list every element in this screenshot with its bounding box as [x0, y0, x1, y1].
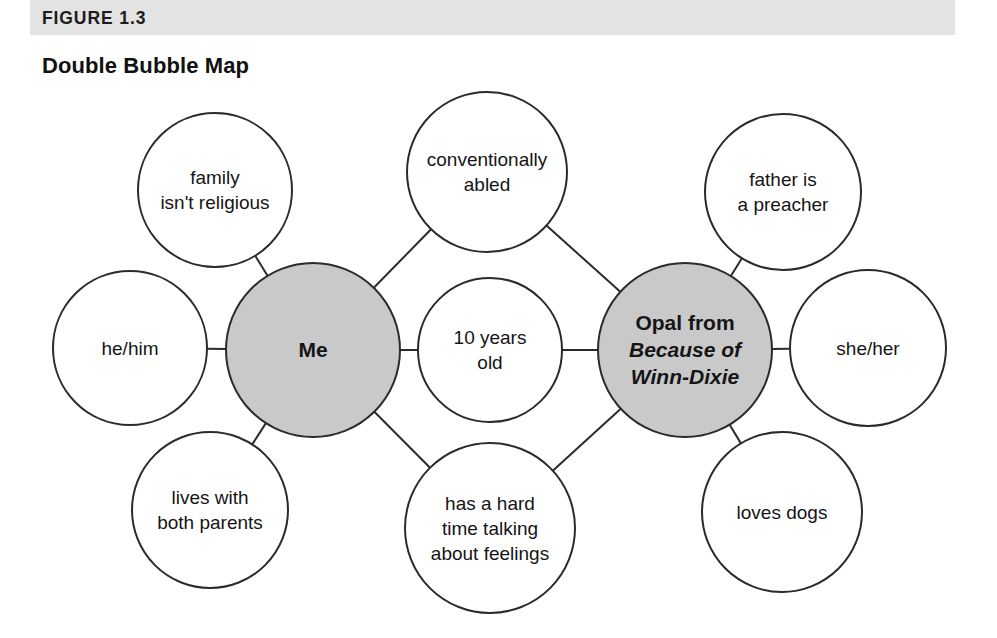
- bubble-text-line: isn't religious: [160, 192, 269, 213]
- bubble-outline: [138, 113, 292, 267]
- connector-line: [546, 225, 620, 291]
- bubble-text-line: old: [477, 352, 502, 373]
- bubble-text-line: Me: [298, 338, 327, 361]
- bubble-text-line: Winn-Dixie: [631, 365, 740, 388]
- bubble-text-line: a preacher: [738, 194, 830, 215]
- bubble-layer: familyisn't religioushe/himlives withbot…: [53, 92, 946, 613]
- bubble-right-middle[interactable]: she/her: [790, 270, 946, 426]
- figure-container: FIGURE 1.3 Double Bubble Map familyisn't…: [0, 0, 997, 638]
- bubble-text-line: Opal from: [635, 311, 734, 334]
- connector-line: [731, 258, 742, 276]
- bubble-outline: [407, 92, 567, 252]
- double-bubble-map-diagram: familyisn't religioushe/himlives withbot…: [0, 0, 997, 638]
- bubble-shared-middle[interactable]: 10 yearsold: [418, 278, 562, 422]
- bubble-right-top[interactable]: father isa preacher: [705, 114, 861, 270]
- bubble-text-line: conventionally: [427, 149, 548, 170]
- bubble-text-line: lives with: [171, 487, 248, 508]
- bubble-text-line: has a hard: [445, 493, 535, 514]
- bubble-right-bottom[interactable]: loves dogs: [702, 432, 862, 592]
- connector-line: [553, 409, 621, 471]
- bubble-left-center[interactable]: Me: [226, 263, 400, 437]
- connector-line: [374, 412, 430, 468]
- bubble-text-line: father is: [749, 169, 817, 190]
- bubble-left-bottom[interactable]: lives withboth parents: [132, 432, 288, 588]
- connector-line: [374, 229, 431, 288]
- bubble-outline: [705, 114, 861, 270]
- bubble-left-top[interactable]: familyisn't religious: [138, 113, 292, 267]
- bubble-text-line: both parents: [157, 512, 263, 533]
- bubble-text-line: family: [190, 167, 240, 188]
- bubble-left-middle[interactable]: he/him: [53, 271, 207, 425]
- bubble-outline: [418, 278, 562, 422]
- bubble-shared-bottom[interactable]: has a hardtime talkingabout feelings: [405, 443, 575, 613]
- connector-line: [255, 256, 267, 276]
- bubble-outline: [132, 432, 288, 588]
- bubble-text-line: she/her: [836, 338, 900, 359]
- bubble-right-center[interactable]: Opal fromBecause ofWinn-Dixie: [598, 263, 772, 437]
- bubble-text-line: about feelings: [431, 543, 549, 564]
- bubble-text-line: abled: [464, 174, 511, 195]
- bubble-text-line: time talking: [442, 518, 538, 539]
- bubble-text-line: 10 years: [454, 327, 527, 348]
- bubble-text-line: he/him: [101, 338, 158, 359]
- connector-line: [252, 423, 266, 444]
- bubble-text-line: loves dogs: [737, 502, 828, 523]
- bubble-text-line: Because of: [629, 338, 743, 361]
- bubble-shared-top[interactable]: conventionallyabled: [407, 92, 567, 252]
- connector-line: [730, 425, 741, 444]
